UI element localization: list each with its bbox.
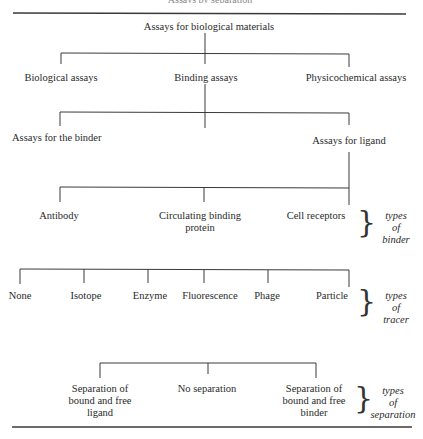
separation-binder-line1: Separation of: [286, 383, 342, 395]
binder-antibody: Antibody: [39, 210, 79, 222]
node-binding-assays: Binding assays: [174, 72, 237, 84]
annotation-line: types: [369, 290, 423, 302]
node-assays-for-binder: Assays for the binder: [12, 132, 102, 144]
tracer-isotope: Isotope: [71, 290, 102, 302]
annotation-line: binder: [369, 234, 423, 246]
annotation-types-of-tracer: types of tracer: [369, 290, 423, 326]
tracer-fluorescence: Fluorescence: [182, 290, 237, 302]
annotation-types-of-separation: types of separation: [364, 385, 422, 421]
annotation-line: types: [364, 385, 422, 397]
binder-circulating-binding-protein-line1: Circulating binding: [159, 210, 241, 222]
separation-binder-line2: bound and free: [283, 395, 346, 407]
tracer-none: None: [9, 290, 32, 302]
annotation-types-of-binder: types of binder: [369, 210, 423, 246]
tracer-particle: Particle: [316, 290, 348, 302]
root-node: Assays for biological materials: [144, 21, 274, 33]
separation-binder-line3: binder: [301, 407, 328, 419]
tracer-enzyme: Enzyme: [133, 290, 167, 302]
separation-ligand-line1: Separation of: [72, 383, 128, 395]
binder-circulating-binding-protein-line2: protein: [185, 222, 215, 234]
tracer-phage: Phage: [254, 290, 280, 302]
annotation-line: of: [369, 222, 423, 234]
annotation-line: tracer: [369, 314, 423, 326]
separation-ligand-line3: ligand: [87, 407, 113, 419]
top-rule: [13, 13, 406, 14]
binder-cell-receptors: Cell receptors: [287, 210, 346, 222]
annotation-line: separation: [364, 409, 422, 421]
annotation-line: types: [369, 210, 423, 222]
annotation-line: of: [364, 397, 422, 409]
node-biological-assays: Biological assays: [24, 72, 97, 84]
node-physicochemical-assays: Physicochemical assays: [306, 72, 407, 84]
node-assays-for-ligand: Assays for ligand: [312, 135, 386, 147]
annotation-line: of: [369, 302, 423, 314]
separation-none: No separation: [178, 383, 237, 395]
separation-ligand-line2: bound and free: [69, 395, 132, 407]
